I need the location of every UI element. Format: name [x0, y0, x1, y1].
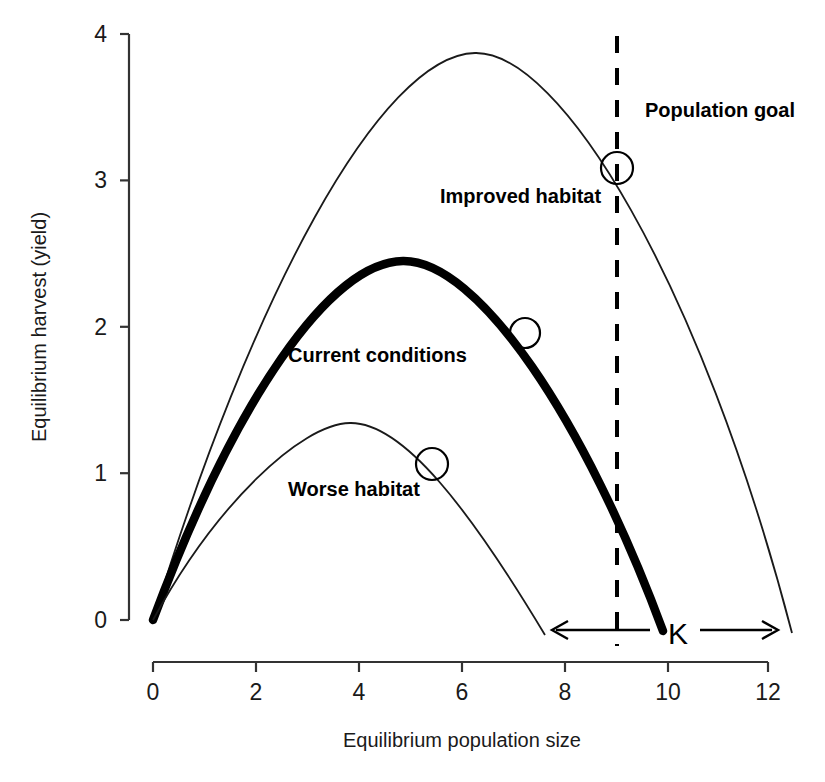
x-axis-title: Equilibrium population size	[343, 729, 581, 751]
marker-worse-habitat	[416, 448, 448, 480]
x-tick-label-2: 2	[250, 679, 263, 705]
y-tick-label-0: 0	[94, 607, 107, 633]
x-tick-label-0: 0	[147, 679, 160, 705]
marker-current-conditions	[510, 318, 540, 348]
y-axis: 4 3 2 1 0	[94, 21, 129, 633]
y-axis-title: Equilibrium harvest (yield)	[28, 212, 50, 442]
curve-improved-habitat	[153, 53, 792, 633]
label-population-goal: Population goal	[645, 99, 795, 121]
figure-panel: 4 3 2 1 0 Equilibrium harvest (yield) 0 …	[0, 0, 825, 782]
label-improved-habitat: Improved habitat	[440, 185, 601, 207]
x-tick-label-8: 8	[559, 679, 572, 705]
x-tick-label-10: 10	[655, 679, 681, 705]
curve-current-conditions	[153, 261, 663, 631]
label-carrying-capacity: K	[668, 617, 688, 650]
x-axis: 0 2 4 6 8 10 12	[147, 662, 781, 705]
y-tick-label-1: 1	[94, 460, 107, 486]
label-current-conditions: Current conditions	[288, 344, 467, 366]
y-tick-label-2: 2	[94, 314, 107, 340]
caption-strip	[0, 766, 825, 782]
y-tick-label-3: 3	[94, 167, 107, 193]
x-tick-label-4: 4	[353, 679, 366, 705]
curve-worse-habitat	[153, 423, 545, 635]
label-worse-habitat: Worse habitat	[288, 478, 420, 500]
x-tick-label-6: 6	[456, 679, 469, 705]
chart-canvas: 4 3 2 1 0 Equilibrium harvest (yield) 0 …	[0, 0, 825, 782]
x-tick-label-12: 12	[755, 679, 781, 705]
y-tick-label-4: 4	[94, 21, 107, 47]
